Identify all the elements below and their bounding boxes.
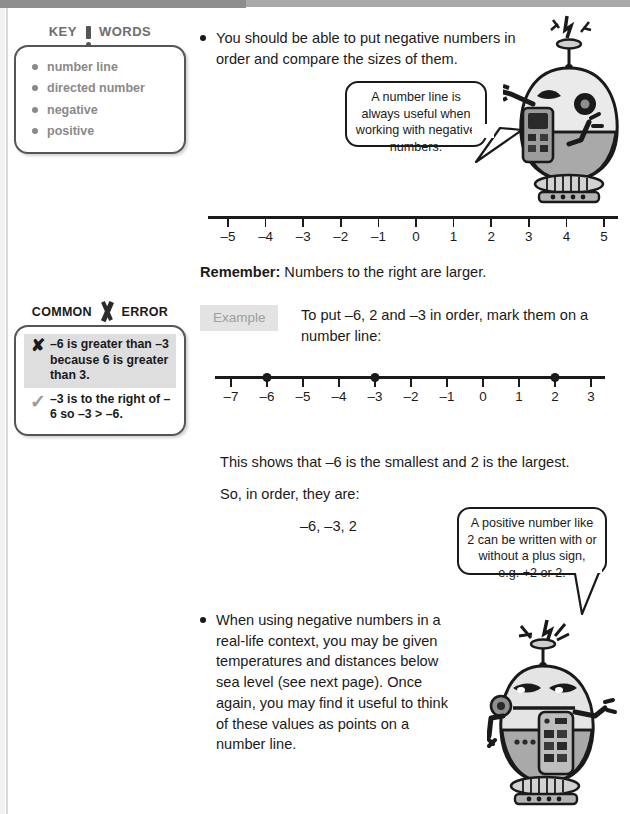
common-error-right-text: –3 is to the right of –6 so –3 > –6.	[50, 392, 174, 423]
number-line-tick-label: 1	[515, 389, 522, 404]
number-line-tick-label: –1	[440, 389, 455, 404]
common-error-heading: COMMON ERROR	[14, 302, 186, 322]
bullet-paragraph-2: When using negative numbers in a real-li…	[200, 610, 460, 755]
cross-icon: ✘	[26, 337, 50, 355]
number-line-tick-label: –4	[332, 389, 347, 404]
number-line-tick	[528, 218, 530, 227]
number-line-tick	[265, 218, 267, 227]
bullet-text: When using negative numbers in a real-li…	[216, 610, 460, 755]
number-line-tick	[302, 218, 304, 227]
common-error-heading-left: COMMON	[32, 305, 92, 319]
common-error-heading-right: ERROR	[122, 305, 169, 319]
number-line-tick-label: –6	[260, 389, 275, 404]
number-line-tick	[590, 378, 592, 387]
robot-character-icon	[503, 8, 627, 204]
number-line-tick-label: 0	[412, 229, 419, 244]
number-line-tick	[227, 218, 229, 227]
speech-bubble-text: A positive number like 2 can be written …	[467, 516, 597, 580]
scan-edge-band-light	[246, 0, 630, 7]
number-line-tick	[482, 378, 484, 387]
number-line-tick	[566, 218, 568, 227]
remember-note: Remember: Numbers to the right are large…	[200, 264, 486, 280]
number-line-tick-label: 2	[487, 229, 494, 244]
number-line-tick	[453, 218, 455, 227]
bullet-dot-icon	[32, 64, 38, 70]
bullet-text: You should be able to put negative numbe…	[216, 28, 530, 69]
number-line-tick	[603, 218, 605, 227]
number-line-tick	[230, 378, 232, 387]
number-line-tick-label: –5	[296, 389, 311, 404]
scan-edge-band-dark	[0, 0, 246, 8]
number-line-tick-label: –3	[368, 389, 383, 404]
number-line-point	[371, 373, 380, 382]
number-line-tick-label: 4	[563, 229, 570, 244]
scan-edge-left-outer	[0, 8, 5, 814]
number-line-point	[263, 373, 272, 382]
remember-label: Remember:	[200, 264, 280, 280]
speech-bubble-2: A positive number like 2 can be written …	[457, 507, 607, 575]
speech-bubble-1: A number line is always useful when work…	[345, 81, 487, 147]
number-line-tick-label: –2	[333, 229, 348, 244]
bullet-paragraph-1: You should be able to put negative numbe…	[200, 28, 530, 69]
number-line-example: –7–6–5–4–3–2–10123	[215, 376, 605, 410]
key-words-heading-right: WORDS	[99, 24, 151, 39]
key-words-heading: KEY WORDS	[14, 22, 186, 41]
check-icon: ✓	[26, 392, 50, 412]
number-line-tick-label: –7	[224, 389, 239, 404]
list-item: directed number	[26, 78, 174, 100]
number-line-tick-label: 3	[587, 389, 594, 404]
key-words-panel: KEY WORDS number line directed number ne…	[14, 22, 186, 154]
number-line-tick-label: 1	[450, 229, 457, 244]
common-error-box: ✘ –6 is greater than –3 because 6 is gre…	[14, 325, 186, 436]
conclusion-shows: This shows that –6 is the smallest and 2…	[220, 452, 620, 473]
number-line-tick-label: –2	[404, 389, 419, 404]
list-item: number line	[26, 56, 174, 78]
key-word-label: positive	[47, 125, 94, 138]
number-line-axis	[208, 216, 618, 219]
number-line-tick	[340, 218, 342, 227]
speech-bubble-text: A number line is always useful when work…	[356, 90, 476, 154]
bullet-dot-icon	[200, 35, 206, 41]
number-line-tick	[415, 218, 417, 227]
key-word-label: directed number	[47, 82, 145, 95]
common-error-wrong-text: –6 is greater than –3 because 6 is great…	[50, 337, 174, 384]
number-line-tick-label: –3	[296, 229, 311, 244]
bullet-dot-icon	[200, 617, 206, 623]
number-line-point	[551, 373, 560, 382]
number-line-tick-label: –5	[221, 229, 236, 244]
example-text: To put –6, 2 and –3 in order, mark them …	[301, 305, 600, 346]
number-line-tick	[338, 378, 340, 387]
number-line-tick-label: –4	[258, 229, 273, 244]
example-badge: Example	[200, 305, 278, 331]
key-words-heading-left: KEY	[49, 24, 77, 39]
number-line-tick-label: 2	[551, 389, 558, 404]
number-line-tick	[446, 378, 448, 387]
bullet-dot-icon	[32, 85, 38, 91]
number-line-tick	[378, 218, 380, 227]
cross-mark-icon	[97, 303, 117, 319]
bullet-dot-icon	[32, 128, 38, 134]
key-word-label: number line	[47, 61, 118, 74]
textbook-page: KEY WORDS number line directed number ne…	[0, 0, 630, 814]
number-line-tick-label: 3	[525, 229, 532, 244]
number-line-tick	[302, 378, 304, 387]
scan-edge-left-inner	[6, 8, 8, 814]
remember-text: Numbers to the right are larger.	[280, 264, 486, 280]
number-line-top: –5–4–3–2–1012345	[208, 216, 618, 250]
key-word-label: negative	[47, 104, 98, 117]
common-error-panel: COMMON ERROR ✘ –6 is greater than –3 bec…	[14, 302, 186, 436]
bullet-dot-icon	[32, 107, 38, 113]
number-line-tick-label: 5	[600, 229, 607, 244]
list-item: negative	[26, 99, 174, 121]
number-line-tick-label: –1	[371, 229, 386, 244]
key-words-box: number line directed number negative pos…	[14, 45, 186, 154]
number-line-tick	[518, 378, 520, 387]
example-block: Example To put –6, 2 and –3 in order, ma…	[200, 305, 600, 346]
common-error-wrong-row: ✘ –6 is greater than –3 because 6 is gre…	[24, 334, 176, 388]
robot-character-icon	[487, 608, 627, 806]
common-error-right-row: ✓ –3 is to the right of –6 so –3 > –6.	[24, 388, 176, 425]
number-line-tick-label: 0	[479, 389, 486, 404]
conclusion-order-label: So, in order, they are:	[220, 484, 550, 505]
number-line-tick	[490, 218, 492, 227]
list-item: positive	[26, 121, 174, 143]
